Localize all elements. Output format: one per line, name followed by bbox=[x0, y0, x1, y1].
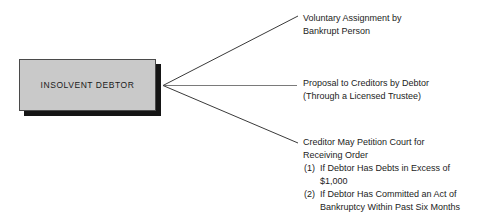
branch-proposal-to-creditors: Proposal to Creditors by Debtor (Through… bbox=[303, 77, 429, 103]
branch-text-line: Voluntary Assignment by bbox=[303, 12, 402, 25]
branch-text-line: Proposal to Creditors by Debtor bbox=[303, 77, 429, 90]
branch-voluntary-assignment: Voluntary Assignment by Bankrupt Person bbox=[303, 12, 402, 38]
connector-line-to-creditor-petition bbox=[163, 86, 298, 144]
sub-item-text: If Debtor Has Debts in Excess of bbox=[320, 163, 450, 173]
sub-item-marker: (2) bbox=[304, 188, 315, 201]
flowchart-diagram: INSOLVENT DEBTOR Voluntary Assignment by… bbox=[0, 0, 491, 222]
sub-item-text: If Debtor Has Committed an Act of bbox=[320, 189, 457, 199]
branch-text-line: Receiving Order bbox=[303, 149, 460, 162]
insolvent-debtor-node-label: INSOLVENT DEBTOR bbox=[20, 80, 155, 90]
branch-text-line: Bankrupt Person bbox=[303, 25, 402, 38]
branch-text-line: (Through a Licensed Trustee) bbox=[303, 90, 429, 103]
branch-creditor-petition: Creditor May Petition Court for Receivin… bbox=[303, 136, 460, 214]
sub-item-continuation: Bankruptcy Within Past Six Months bbox=[303, 201, 460, 214]
branch-text-line: Creditor May Petition Court for bbox=[303, 136, 460, 149]
connector-line-to-voluntary-assignment bbox=[163, 16, 298, 86]
sub-item-marker: (1) bbox=[304, 162, 315, 175]
sub-item-2: (2) If Debtor Has Committed an Act of bbox=[303, 188, 460, 201]
sub-item-1: (1) If Debtor Has Debts in Excess of bbox=[303, 162, 460, 175]
insolvent-debtor-node: INSOLVENT DEBTOR bbox=[19, 59, 156, 111]
sub-item-continuation: $1,000 bbox=[303, 175, 460, 188]
